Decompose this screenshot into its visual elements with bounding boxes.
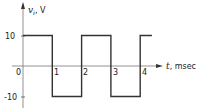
x-axis-label-unit: , msec bbox=[170, 62, 196, 71]
y-tick-label-neg10: -10 bbox=[4, 93, 17, 102]
x-tick-label-4: 4 bbox=[142, 68, 147, 77]
square-wave-chart: 10 -10 0 1 2 3 4 vi, V t, msec bbox=[0, 0, 205, 112]
x-axis-arrow-icon bbox=[156, 64, 163, 68]
y-tick-label-10: 10 bbox=[5, 32, 15, 41]
y-axis-arrow-icon bbox=[21, 2, 25, 9]
x-axis-label: t, msec bbox=[166, 61, 196, 71]
y-axis-label: vi, V bbox=[28, 5, 46, 16]
x-tick-label-1: 1 bbox=[54, 68, 59, 77]
x-tick-label-2: 2 bbox=[83, 68, 88, 77]
y-axis-label-unit: , V bbox=[35, 6, 46, 15]
x-tick-label-0: 0 bbox=[16, 68, 21, 77]
x-tick-label-3: 3 bbox=[113, 68, 118, 77]
